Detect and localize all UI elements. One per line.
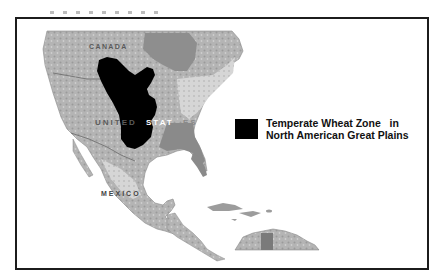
legend-line-1: Temperate Wheat Zone in	[266, 117, 409, 129]
mexico-label: MEXICO	[101, 190, 141, 197]
canada-label: CANADA	[89, 43, 128, 50]
cropped-caption-text	[50, 0, 180, 4]
united-states-label-part3: ES	[183, 118, 198, 127]
legend-text: Temperate Wheat Zone in North American G…	[266, 117, 409, 141]
south-america-landmass	[235, 229, 319, 250]
united-states-label-part2: STAT	[146, 118, 174, 127]
map-legend: Temperate Wheat Zone in North American G…	[235, 117, 409, 141]
united-states-label-part1: UNITED	[95, 118, 137, 127]
caribbean-islands	[207, 203, 272, 221]
map-frame: CANADA UNITED STAT ES MEXICO Temperate W…	[15, 17, 429, 270]
legend-swatch-wheat-zone	[235, 119, 258, 139]
legend-line-2: North American Great Plains	[266, 129, 409, 141]
north-america-map	[17, 19, 427, 268]
central-america-landmass	[167, 213, 225, 261]
